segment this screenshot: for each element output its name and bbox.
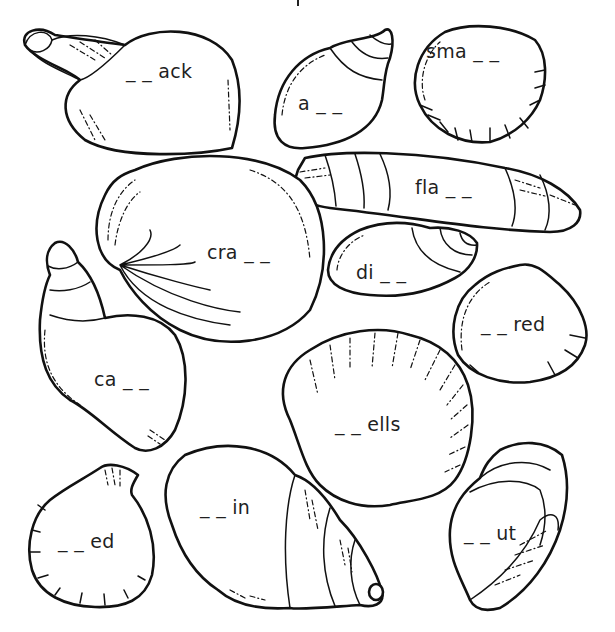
word-label-red: _ _ red bbox=[481, 315, 545, 334]
worksheet-page: _ _ ack a _ _ sma _ _ fla _ _ cra _ _ di… bbox=[0, 0, 615, 632]
word-label-cra: cra _ _ bbox=[207, 243, 270, 262]
shell-snail-top-mid bbox=[275, 29, 393, 148]
word-label-in: _ _ in bbox=[200, 498, 250, 517]
word-label-ells: _ _ ells bbox=[335, 415, 401, 434]
word-label-di: di _ _ bbox=[356, 263, 406, 282]
word-label-sma: sma _ _ bbox=[426, 42, 499, 61]
word-label-ed: _ _ ed bbox=[58, 532, 115, 551]
word-label-ca: ca _ _ bbox=[94, 370, 149, 389]
word-label-ut: _ _ ut bbox=[464, 524, 516, 543]
shell-periwinkle bbox=[328, 223, 477, 296]
word-label-ack: _ _ ack bbox=[126, 62, 192, 81]
word-label-a: a _ _ bbox=[298, 94, 342, 113]
word-label-fla: fla _ _ bbox=[415, 178, 472, 197]
shell-whelk-top-left bbox=[24, 30, 239, 154]
